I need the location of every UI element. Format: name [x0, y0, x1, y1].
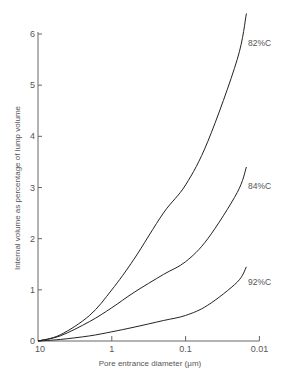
y-tick-label: 4: [30, 131, 35, 141]
y-tick-label: 1: [30, 285, 35, 295]
x-tick-label: 0.01: [251, 344, 269, 354]
series-label: 92%C: [248, 277, 271, 287]
curves: [38, 14, 246, 341]
y-tick-label: 2: [30, 234, 35, 244]
axes: 01234561010.10.01: [30, 29, 268, 354]
series-labels: 82%C84%C92%C: [248, 38, 271, 287]
pore-volume-chart: 01234561010.10.01 82%C84%C92%C Internal …: [0, 0, 285, 375]
x-axis-title: Pore entrance diameter (μm): [99, 359, 202, 368]
x-tick-label: 10: [35, 344, 45, 354]
curve-82pctc: [38, 14, 246, 341]
y-tick-label: 3: [30, 183, 35, 193]
y-tick-label: 6: [30, 29, 35, 39]
x-tick-label: 0.1: [179, 344, 192, 354]
x-tick-label: 1: [109, 344, 114, 354]
curve-84pctc: [38, 167, 246, 341]
series-label: 82%C: [248, 38, 271, 48]
y-axis-title: Internal volume as percentage of lump vo…: [13, 105, 22, 270]
y-tick-label: 5: [30, 80, 35, 90]
series-label: 84%C: [248, 181, 271, 191]
